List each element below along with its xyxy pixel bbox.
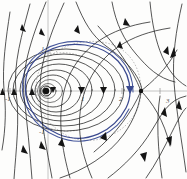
arrow-bottom-left-2 bbox=[39, 141, 46, 150]
phase-portrait-figure: -1 1 2 3 1 -1 bbox=[0, 0, 187, 179]
trajectory-over-top-2 bbox=[79, 28, 170, 178]
trajectory-far-right-1 bbox=[173, 4, 186, 172]
arrow-top-1 bbox=[20, 24, 26, 32]
arrow-sep-right-up bbox=[170, 47, 176, 58]
arrow-lower-arc-2 bbox=[140, 152, 147, 162]
arrow-top-5 bbox=[163, 46, 169, 55]
arrow-lower-arc-3 bbox=[166, 136, 172, 146]
x-tick-label-3: 3 bbox=[165, 97, 170, 105]
arrow-top-3 bbox=[74, 25, 80, 34]
center-fixed-point bbox=[43, 88, 49, 94]
arrow-orbit-6-right bbox=[100, 87, 107, 94]
outer-trajectories-group bbox=[2, 2, 186, 179]
trajectory-upper-left-4 bbox=[2, 12, 10, 150]
arrow-orbit-left-1 bbox=[29, 88, 35, 95]
arrow-bottom-left-1 bbox=[21, 145, 28, 154]
trajectory-over-top-3 bbox=[76, 2, 142, 90]
separatrix-in-lower bbox=[94, 91, 141, 152]
trajectory-under-3 bbox=[146, 108, 186, 178]
saddle-fixed-point bbox=[139, 89, 143, 93]
phase-portrait-svg: -1 1 2 3 1 -1 bbox=[0, 0, 187, 179]
trajectory-over-top-4 bbox=[112, 2, 175, 82]
trajectory-under-1 bbox=[60, 91, 141, 178]
arrow-sep-in-upper bbox=[117, 41, 123, 49]
trajectory-under-2 bbox=[108, 96, 186, 178]
trajectory-far-right-2 bbox=[158, 96, 162, 178]
arrow-top-2 bbox=[39, 28, 45, 36]
arrow-top-4 bbox=[123, 18, 130, 26]
